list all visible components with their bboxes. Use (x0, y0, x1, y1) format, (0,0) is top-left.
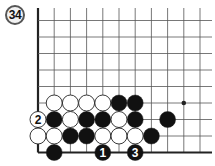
move-number-label: 2 (35, 113, 42, 127)
white-stone[interactable] (46, 128, 62, 144)
move-number-label: 3 (132, 146, 139, 160)
white-stone[interactable] (62, 95, 78, 111)
white-stone[interactable] (111, 112, 127, 128)
white-stone[interactable] (127, 128, 143, 144)
go-board[interactable]: 213 (0, 0, 215, 166)
white-stone[interactable] (95, 128, 111, 144)
black-stone[interactable] (79, 128, 95, 144)
black-stone[interactable] (46, 145, 62, 161)
white-stone[interactable] (62, 112, 78, 128)
black-stone[interactable] (62, 128, 78, 144)
black-stone[interactable] (160, 112, 176, 128)
white-stone[interactable] (111, 128, 127, 144)
black-stone[interactable] (111, 95, 127, 111)
black-stone[interactable] (95, 112, 111, 128)
black-stone[interactable] (127, 112, 143, 128)
white-stone[interactable] (95, 95, 111, 111)
white-stone[interactable] (46, 95, 62, 111)
star-point (182, 101, 187, 106)
black-stone[interactable] (79, 112, 95, 128)
black-stone[interactable] (46, 112, 62, 128)
black-stone[interactable] (127, 95, 143, 111)
black-stone[interactable] (143, 128, 159, 144)
white-stone[interactable] (30, 128, 46, 144)
white-stone[interactable] (79, 95, 95, 111)
move-number-label: 1 (99, 146, 106, 160)
